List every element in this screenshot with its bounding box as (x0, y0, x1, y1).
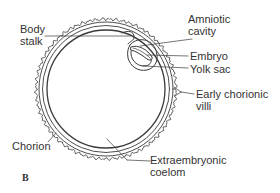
chorion-outer-membrane (39, 22, 173, 156)
leader-amniotic-cavity (140, 39, 192, 46)
embryo-inner-line (133, 48, 150, 58)
label-early-chorionic-villi: Early chorionic villi (196, 88, 268, 112)
label-amniotic-cavity: Amniotic cavity (188, 13, 230, 37)
leader-chorionic-villi (174, 87, 194, 96)
label-yolk-sac: Yolk sac (190, 63, 231, 75)
label-extraembryonic-coelom: Extraembryonic coelom (150, 154, 226, 178)
leader-embryo (147, 55, 188, 56)
label-embryo: Embryo (190, 50, 228, 62)
label-body-stalk: Body stalk (20, 23, 45, 47)
label-chorion: Chorion (12, 140, 51, 152)
yolk-sac-shape (131, 51, 151, 66)
extraembryonic-coelom-boundary (47, 30, 165, 148)
chorionic-villi-fringe (35, 18, 178, 161)
panel-label: B (22, 172, 29, 183)
leader-extraembryonic-coelom-tail (127, 160, 150, 161)
